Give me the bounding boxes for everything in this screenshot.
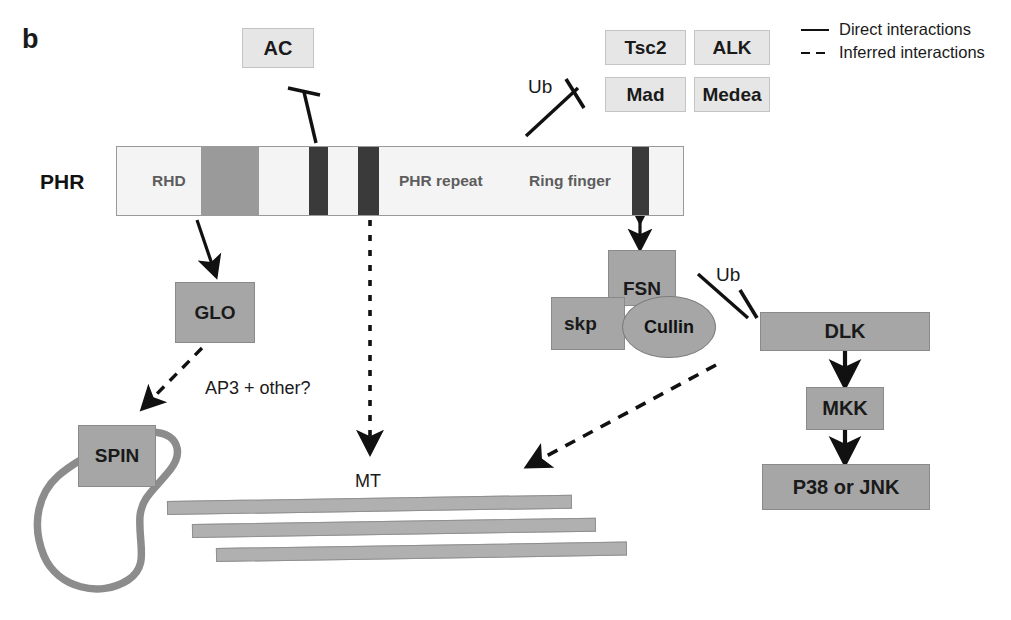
node-p38-or-jnk[interactable]: P38 or JNK	[762, 464, 930, 510]
node-ac[interactable]: AC	[242, 28, 314, 68]
node-mkk[interactable]: MKK	[806, 387, 884, 430]
node-dlk[interactable]: DLK	[760, 312, 930, 351]
ub-label-left: Ub	[528, 76, 552, 98]
phr-segment-dark-2	[358, 147, 379, 215]
phr-domain-label-phr-repeat: PHR repeat	[399, 172, 483, 190]
legend: Direct interactions Inferred interaction…	[800, 18, 1005, 64]
node-glo[interactable]: GLO	[175, 282, 255, 343]
phr-domain-label-rhd: RHD	[152, 172, 186, 190]
node-tsc2[interactable]: Tsc2	[605, 30, 686, 65]
phr-segment-dark-1	[309, 147, 328, 215]
mt-label: MT	[355, 471, 381, 492]
node-spin[interactable]: SPIN	[78, 425, 156, 487]
phr-bar-name: PHR	[40, 170, 84, 194]
ac-inhibition-connector	[288, 88, 320, 143]
ub-label-right: Ub	[716, 264, 740, 286]
node-alk[interactable]: ALK	[694, 30, 770, 65]
solid-line-icon	[800, 24, 830, 36]
dashed-line-icon	[800, 47, 830, 59]
node-cullin[interactable]: Cullin	[622, 296, 716, 358]
glo-to-spin-connector	[143, 348, 202, 408]
pathway-figure: b	[0, 0, 1011, 620]
phr-segment-mid-gray	[201, 147, 259, 215]
legend-label-inferred: Inferred interactions	[839, 43, 985, 62]
node-skp[interactable]: skp	[551, 297, 625, 350]
phr-domain-label-ring-finger: Ring finger	[529, 172, 611, 190]
node-mad[interactable]: Mad	[605, 77, 686, 112]
phr-to-glo-connector	[197, 220, 216, 276]
phr-domain-bar[interactable]: RHD PHR repeat Ring finger	[116, 146, 684, 216]
legend-label-direct: Direct interactions	[839, 20, 971, 39]
node-medea[interactable]: Medea	[694, 77, 770, 112]
fsn-to-mt-connector	[528, 365, 716, 466]
legend-item-inferred: Inferred interactions	[800, 41, 1005, 64]
ap3-annotation: AP3 + other?	[205, 378, 311, 399]
legend-item-direct: Direct interactions	[800, 18, 1005, 41]
phr-segment-dark-3	[632, 147, 649, 215]
